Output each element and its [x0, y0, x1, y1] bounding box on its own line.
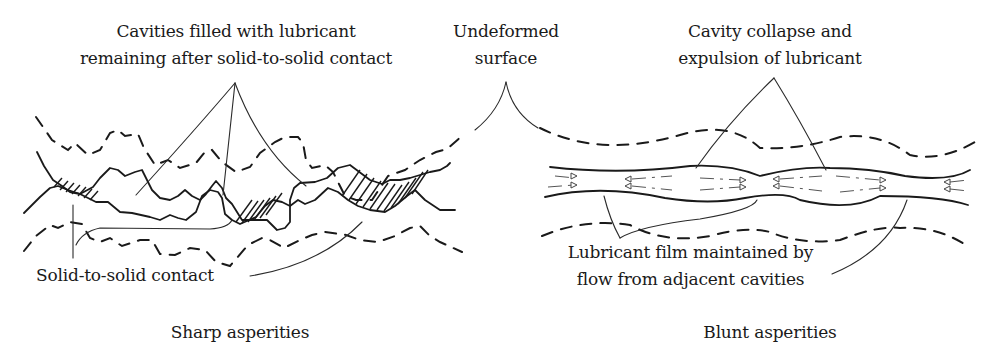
contact-label-text: Solid-to-solid contact: [36, 262, 251, 289]
upper-film-surface-right: [550, 166, 970, 178]
solid-contact-hatching: [54, 170, 428, 223]
collapse-label-line1: Cavity collapse and: [664, 18, 876, 45]
undeformed-label-line1: Undeformed: [440, 18, 572, 45]
sharp-asperities-caption: Sharp asperities: [150, 319, 330, 346]
sharp-caption-text: Sharp asperities: [150, 319, 330, 346]
lower-undeformed-surface-left: [24, 222, 462, 266]
lubrication-asperity-diagram: Cavities filled with lubricant remaining…: [0, 0, 997, 355]
sharp-asperities-figure: [24, 83, 463, 276]
undeformed-label-line2: surface: [440, 45, 572, 72]
solid-contact-label: Solid-to-solid contact: [36, 262, 251, 289]
cavities-label-line1: Cavities filled with lubricant: [58, 18, 414, 45]
cavities-label: Cavities filled with lubricant remaining…: [58, 18, 414, 72]
film-label-line2: flow from adjacent cavities: [548, 266, 833, 293]
collapse-label-line2: expulsion of lubricant: [664, 45, 876, 72]
lubricant-film-label: Lubricant film maintained by flow from a…: [548, 239, 833, 293]
cavities-label-line2: remaining after solid-to-solid contact: [58, 45, 414, 72]
collapse-leader-lines: [696, 78, 826, 170]
undeformed-leader-lines: [475, 82, 538, 130]
film-label-line1: Lubricant film maintained by: [548, 239, 833, 266]
upper-undeformed-surface-left: [36, 117, 463, 200]
lower-film-surface-right: [545, 191, 968, 205]
cavity-collapse-label: Cavity collapse and expulsion of lubrica…: [664, 18, 876, 72]
upper-undeformed-surface-right: [540, 128, 975, 157]
undeformed-surface-label: Undeformed surface: [440, 18, 572, 72]
blunt-asperities-caption: Blunt asperities: [690, 319, 850, 346]
blunt-caption-text: Blunt asperities: [690, 319, 850, 346]
upper-rough-surface-left: [37, 152, 450, 230]
